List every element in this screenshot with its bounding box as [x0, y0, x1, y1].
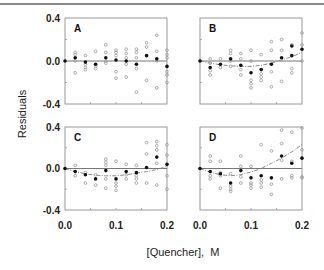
raw-data-point: [145, 141, 148, 144]
raw-data-point: [84, 54, 87, 57]
y-tick-top-row-zero: 0.0: [46, 56, 60, 67]
y-tick-bottom-row-max: 0.4: [46, 122, 60, 133]
raw-data-point: [125, 52, 128, 55]
raw-data-point: [270, 193, 273, 196]
y-tick-bottom-row-min: -0.4: [43, 205, 61, 216]
raw-data-point: [209, 160, 212, 163]
raw-data-point: [239, 57, 242, 60]
raw-data-point: [135, 48, 138, 51]
mean-data-point: [84, 173, 88, 177]
raw-data-point: [135, 51, 138, 54]
x-tick-left-min: 0.0: [58, 220, 72, 231]
raw-data-point: [280, 177, 283, 180]
mean-data-point: [135, 62, 139, 66]
raw-data-point: [250, 82, 253, 85]
raw-data-point: [280, 38, 283, 41]
mean-data-point: [290, 162, 294, 166]
raw-data-point: [209, 69, 212, 72]
raw-data-point: [239, 182, 242, 185]
raw-data-point: [229, 49, 232, 52]
raw-data-point: [260, 179, 263, 182]
raw-data-point: [209, 174, 212, 177]
raw-data-point: [260, 182, 263, 185]
raw-data-point: [155, 144, 158, 147]
mean-data-point: [259, 174, 263, 178]
raw-data-point: [135, 91, 138, 94]
raw-data-point: [209, 74, 212, 77]
mean-data-point: [135, 171, 139, 175]
mean-data-point: [155, 57, 159, 61]
mean-data-point: [104, 56, 108, 60]
raw-data-point: [125, 163, 128, 166]
raw-data-point: [84, 182, 87, 185]
raw-data-point: [239, 175, 242, 178]
mean-data-point: [145, 166, 149, 170]
raw-data-point: [280, 129, 283, 132]
x-tick-right-min: 0.0: [193, 220, 207, 231]
raw-data-point: [115, 185, 118, 188]
raw-data-point: [239, 68, 242, 71]
x-tick-left-mid: 0.1: [109, 220, 123, 231]
raw-data-point: [219, 57, 222, 60]
raw-data-point: [125, 177, 128, 180]
mean-data-point: [280, 154, 284, 158]
raw-data-point: [229, 65, 232, 68]
raw-data-point: [290, 131, 293, 134]
raw-data-point: [209, 177, 212, 180]
raw-data-point: [250, 187, 253, 190]
raw-data-point: [104, 158, 107, 161]
raw-data-point: [74, 71, 77, 74]
raw-data-point: [270, 70, 273, 73]
panel-a: A: [63, 18, 169, 104]
raw-data-point: [115, 70, 118, 73]
mean-data-point: [239, 64, 243, 68]
raw-data-point: [145, 41, 148, 44]
raw-data-point: [145, 182, 148, 185]
raw-data-point: [125, 48, 128, 51]
raw-data-point: [209, 155, 212, 158]
raw-data-point: [125, 63, 128, 66]
raw-data-point: [74, 174, 77, 177]
raw-data-point: [104, 164, 107, 167]
mean-data-point: [165, 163, 169, 167]
raw-data-point: [239, 165, 242, 168]
raw-data-point: [155, 162, 158, 165]
raw-data-point: [270, 183, 273, 186]
raw-data-point: [229, 52, 232, 55]
mean-data-point: [104, 169, 108, 173]
raw-data-point: [229, 185, 232, 188]
raw-data-point: [219, 66, 222, 69]
mean-data-point: [94, 177, 98, 181]
mean-data-point: [124, 170, 128, 174]
mean-data-point: [63, 59, 67, 63]
raw-data-point: [270, 149, 273, 152]
mean-data-point: [219, 172, 223, 176]
raw-data-point: [209, 57, 212, 60]
raw-data-point: [94, 50, 97, 53]
raw-data-point: [229, 172, 232, 175]
raw-data-point: [280, 159, 283, 162]
mean-data-point: [63, 167, 67, 171]
panel-d: D: [198, 127, 304, 210]
raw-data-point: [280, 142, 283, 145]
y-axis-label: Residuals: [16, 89, 28, 138]
raw-data-point: [145, 153, 148, 156]
raw-data-point: [260, 76, 263, 79]
mean-data-point: [198, 167, 202, 171]
raw-data-point: [219, 160, 222, 163]
raw-data-point: [250, 165, 253, 168]
raw-data-point: [155, 148, 158, 151]
mean-data-point: [270, 176, 274, 180]
x-axis-label: [Quencher], M: [147, 246, 220, 258]
mean-data-point: [239, 169, 243, 173]
raw-data-point: [145, 79, 148, 82]
x-tick-right-mid: 0.1: [244, 220, 258, 231]
raw-data-point: [280, 80, 283, 83]
raw-data-point: [260, 79, 263, 82]
raw-data-point: [260, 53, 263, 56]
raw-data-point: [115, 189, 118, 192]
raw-data-point: [250, 86, 253, 89]
mean-data-point: [290, 54, 294, 58]
raw-data-point: [104, 177, 107, 180]
raw-data-point: [155, 86, 158, 89]
